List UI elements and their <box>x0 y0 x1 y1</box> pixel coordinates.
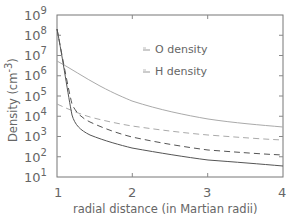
legend-o-label: O density <box>155 43 208 56</box>
svg-text:104: 104 <box>24 106 47 124</box>
svg-text:107: 107 <box>24 45 47 63</box>
svg-text:105: 105 <box>24 86 47 104</box>
svg-text:109: 109 <box>24 5 47 23</box>
svg-text:101: 101 <box>24 167 47 185</box>
legend-h-label: H density <box>155 65 208 78</box>
y-tick-labels: 101 102 103 104 105 106 107 108 109 <box>24 5 47 185</box>
x-axis-title: radial distance (in Martian radii) <box>73 202 258 216</box>
x-ticks <box>132 15 207 177</box>
density-chart: 101 102 103 104 105 106 107 108 109 1 2 … <box>0 0 295 218</box>
chart-canvas: 101 102 103 104 105 106 107 108 109 1 2 … <box>0 0 295 218</box>
svg-text:2: 2 <box>128 185 136 200</box>
svg-text:103: 103 <box>24 126 47 144</box>
svg-text:106: 106 <box>24 65 47 83</box>
svg-text:3: 3 <box>203 185 211 200</box>
svg-text:4: 4 <box>278 185 286 200</box>
svg-text:1: 1 <box>54 185 62 200</box>
y-axis-title: Density (cm-3) <box>3 58 20 142</box>
svg-text:102: 102 <box>24 147 47 165</box>
svg-text:108: 108 <box>24 25 47 43</box>
legend: O density H density <box>143 43 208 78</box>
x-tick-labels: 1 2 3 4 <box>54 185 286 200</box>
